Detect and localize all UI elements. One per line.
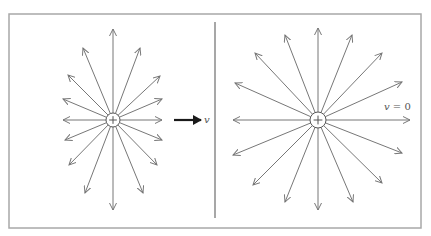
figure: v v = 0 xyxy=(0,0,431,236)
field-line-arrow xyxy=(63,99,107,117)
right-charge xyxy=(310,112,326,128)
field-line-arrow xyxy=(65,123,107,140)
right-panel: v = 0 xyxy=(233,28,411,210)
field-line-arrow xyxy=(69,125,108,165)
equals-zero-text: = 0 xyxy=(390,101,411,112)
field-line-arrow xyxy=(85,127,111,194)
velocity-label: v xyxy=(204,114,210,125)
left-panel: v xyxy=(63,29,210,210)
left-charge xyxy=(106,113,120,127)
field-line-arrow xyxy=(120,123,163,140)
field-line-arrow xyxy=(116,48,141,113)
velocity-zero-label: v = 0 xyxy=(384,101,411,112)
field-lines-diagram: v v = 0 xyxy=(0,0,431,236)
